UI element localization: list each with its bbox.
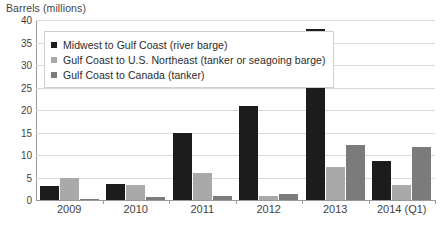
bar	[173, 133, 192, 201]
legend-item[interactable]: Gulf Coast to Canada (tanker)	[51, 67, 325, 82]
legend-swatch-icon	[51, 57, 57, 63]
x-axis-tick-mark	[169, 200, 170, 204]
legend-swatch-icon	[51, 72, 57, 78]
y-tick-label: 40	[4, 15, 32, 26]
bar	[392, 185, 411, 200]
x-tick-label: 2013	[302, 203, 369, 215]
y-tick-label: 25	[4, 82, 32, 93]
bar	[372, 161, 391, 200]
bar	[60, 178, 79, 201]
y-tick-label: 10	[4, 150, 32, 161]
x-tick-label: 2011	[169, 203, 236, 215]
legend-item-label: Gulf Coast to U.S. Northeast (tanker or …	[63, 54, 325, 66]
legend-item[interactable]: Gulf Coast to U.S. Northeast (tanker or …	[51, 52, 325, 67]
chart-legend: Midwest to Gulf Coast (river barge)Gulf …	[44, 31, 334, 88]
bar	[126, 185, 145, 200]
bar	[193, 173, 212, 200]
x-axis-tick-labels: 200920102011201220132014 (Q1)	[36, 203, 435, 225]
bar	[259, 196, 278, 200]
x-axis-tick-mark	[236, 200, 237, 204]
x-tick-label: 2014 (Q1)	[369, 203, 436, 215]
legend-item-label: Midwest to Gulf Coast (river barge)	[63, 39, 228, 51]
x-tick-label: 2009	[36, 203, 103, 215]
legend-item[interactable]: Midwest to Gulf Coast (river barge)	[51, 37, 325, 52]
y-tick-label: 30	[4, 60, 32, 71]
x-axis-tick-mark	[302, 200, 303, 204]
y-tick-label: 15	[4, 127, 32, 138]
bar-chart: Barrels (millions) 0510152025303540 2009…	[0, 0, 441, 232]
bar	[412, 147, 431, 200]
x-axis-tick-mark	[369, 200, 370, 204]
bar	[346, 145, 365, 200]
x-axis-tick-mark	[103, 200, 104, 204]
legend-swatch-icon	[51, 42, 57, 48]
y-tick-label: 20	[4, 105, 32, 116]
x-tick-label: 2012	[236, 203, 303, 215]
bar	[213, 196, 232, 200]
y-axis-tick-labels: 0510152025303540	[0, 20, 32, 200]
bar	[80, 199, 99, 200]
bar	[279, 194, 298, 200]
y-tick-label: 5	[4, 172, 32, 183]
y-tick-label: 0	[4, 195, 32, 206]
chart-axis-title: Barrels (millions)	[6, 2, 86, 14]
bar	[146, 197, 165, 200]
bar	[326, 167, 345, 200]
bar-group	[369, 20, 436, 200]
bar	[40, 186, 59, 200]
y-tick-label: 35	[4, 37, 32, 48]
legend-item-label: Gulf Coast to Canada (tanker)	[63, 69, 205, 81]
bar	[106, 184, 125, 200]
bar	[239, 106, 258, 201]
x-tick-label: 2010	[103, 203, 170, 215]
x-axis-tick-mark	[435, 200, 436, 204]
